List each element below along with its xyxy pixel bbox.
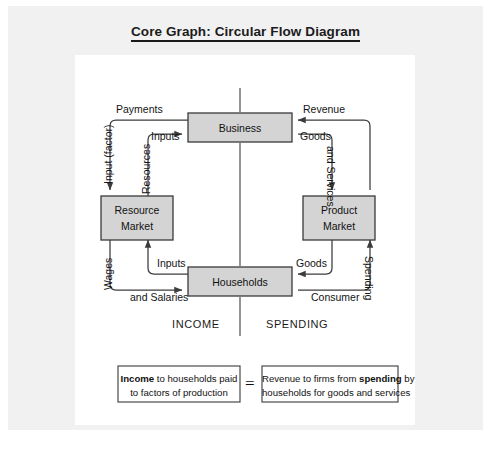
- equals-sign: =: [245, 374, 255, 394]
- resource-market-label-line2: Market: [101, 219, 173, 233]
- label-inputs-top: Inputs: [151, 131, 180, 143]
- label-revenue: Revenue: [303, 104, 345, 116]
- label-resources: Resources: [141, 144, 153, 194]
- product-market-label-line1: Product: [303, 203, 375, 217]
- section-label-spending: SPENDING: [266, 318, 328, 330]
- resource-market-label-line1: Resource: [101, 203, 173, 217]
- equation-right-bold: spending: [359, 373, 402, 384]
- label-and-services: and Services: [324, 146, 336, 207]
- label-consumer: Consumer: [311, 292, 359, 304]
- label-wages: Wages: [103, 258, 115, 290]
- label-payments: Payments: [116, 104, 163, 116]
- label-goods-bottom: Goods: [296, 258, 327, 270]
- page-root: Core Graph: Circular Flow Diagram: [0, 0, 491, 453]
- label-goods-top: Goods: [300, 131, 331, 143]
- equation-right-line2: households for goods and services: [262, 386, 398, 400]
- product-market-label-line2: Market: [303, 219, 375, 233]
- equation-left-bold: Income: [121, 373, 155, 384]
- equation-right-b: by: [402, 373, 415, 384]
- equation-left-rest: to households paid: [154, 373, 237, 384]
- equation-right-line1: Revenue to firms from spending by: [262, 372, 398, 386]
- business-box-label: Business: [188, 121, 292, 135]
- label-inputs-bottom: Inputs: [157, 258, 186, 270]
- equation-left-line2: to factors of production: [118, 386, 240, 400]
- equation-right-a: Revenue to firms from: [262, 373, 359, 384]
- equation-left-line1: Income to households paid: [118, 372, 240, 386]
- section-label-income: INCOME: [172, 318, 220, 330]
- label-spending-vertical: Spending: [362, 256, 374, 300]
- households-box-label: Households: [188, 275, 292, 289]
- label-and-salaries: and Salaries: [130, 292, 188, 304]
- arrow-resources-inputs: [148, 134, 182, 196]
- label-input-factor: Input (factor): [103, 124, 115, 184]
